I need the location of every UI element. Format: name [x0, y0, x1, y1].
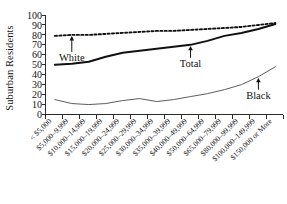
annotation-label-white: White	[59, 52, 85, 63]
annotation-arrowhead-black	[256, 78, 261, 82]
annotation-arrowhead-white	[69, 36, 74, 40]
y-tick-label: 70	[32, 39, 42, 50]
series-layer	[55, 23, 276, 105]
y-axis-title-text: Suburban Residents	[4, 25, 15, 111]
y-axis-title: Suburban Residents	[4, 25, 15, 111]
y-tick-label: 50	[32, 59, 42, 70]
annotation-arrowhead-total	[188, 46, 193, 50]
chart-figure: Suburban Residents 010203040506070809010…	[0, 0, 287, 204]
y-tick-label: 30	[32, 79, 42, 90]
series-line-black	[55, 67, 276, 105]
y-tick-label: 80	[32, 30, 42, 41]
suburban-residents-line-chart: Suburban Residents 010203040506070809010…	[0, 0, 287, 204]
y-tick-label: 20	[32, 89, 42, 100]
y-tick-label: 10	[32, 99, 42, 110]
y-tick-marks	[42, 15, 46, 115]
y-tick-label: 0	[37, 109, 42, 120]
y-tick-label: 40	[32, 69, 42, 80]
annotation-layer: WhiteTotalBlack	[59, 36, 271, 101]
annotation-label-black: Black	[246, 90, 271, 101]
y-tick-label: 90	[32, 20, 42, 31]
x-tick-labels: < $5,000$5,000–9,999$10,000–14,999$15,00…	[28, 116, 274, 163]
series-line-white	[55, 23, 276, 36]
annotation-label-total: Total	[180, 58, 202, 69]
y-tick-labels: 0102030405060708090100	[27, 10, 42, 121]
y-tick-label: 100	[27, 10, 42, 21]
y-tick-label: 60	[32, 49, 42, 60]
